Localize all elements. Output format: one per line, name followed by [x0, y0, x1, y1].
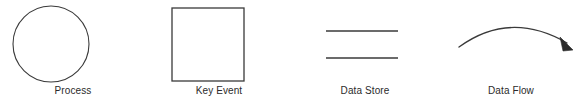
- legend-item-data-flow: Data Flow: [438, 0, 584, 106]
- dfd-symbol-legend: Process Key Event Data Store: [0, 0, 584, 106]
- parallel-lines-icon: [326, 31, 398, 58]
- data-store-symbol: [292, 0, 438, 86]
- key-event-symbol: [146, 0, 292, 86]
- circle-shape-icon: [13, 6, 89, 82]
- legend-item-process: Process: [0, 0, 146, 106]
- square-shape-icon: [172, 8, 244, 81]
- key-event-label: Key Event: [146, 85, 292, 97]
- legend-item-key-event: Key Event: [146, 0, 292, 106]
- process-label: Process: [0, 85, 146, 97]
- process-symbol: [0, 0, 146, 86]
- legend-item-data-store: Data Store: [292, 0, 438, 106]
- data-store-label: Data Store: [292, 85, 438, 97]
- data-flow-label: Data Flow: [438, 85, 584, 97]
- curved-arrow-icon: [459, 27, 573, 51]
- data-flow-symbol: [438, 0, 584, 86]
